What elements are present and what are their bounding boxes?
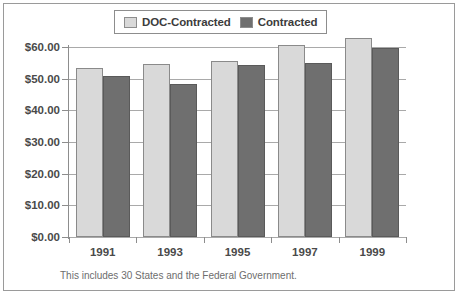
x-axis-tick [339, 237, 340, 243]
bar [143, 64, 170, 237]
x-axis-tick [406, 237, 407, 243]
bar-group [76, 47, 130, 237]
chart-footnote: This includes 30 States and the Federal … [60, 270, 297, 281]
bar [372, 48, 399, 237]
y-axis-tick [62, 174, 68, 175]
y-axis-tick [62, 237, 68, 238]
y-axis-tick-label: $50.00 [25, 73, 60, 85]
y-axis-tick [62, 205, 68, 206]
x-axis-tick [204, 237, 205, 243]
y-axis-tick [62, 79, 68, 80]
bar-group [345, 47, 399, 237]
legend-label-contracted: Contracted [258, 16, 318, 28]
y-axis-labels: $0.00$10.00$20.00$30.00$40.00$50.00$60.0… [0, 0, 60, 296]
x-axis-tick [69, 237, 70, 243]
chart-legend: DOC-Contracted Contracted [114, 10, 327, 34]
x-axis-tick-label: 1991 [90, 246, 116, 258]
legend-entry-contracted: Contracted [240, 16, 318, 28]
x-axis-tick-label: 1995 [225, 246, 251, 258]
bar-group [143, 47, 197, 237]
bar [345, 38, 372, 237]
x-axis-tick-label: 1997 [292, 246, 318, 258]
y-axis-tick-label: $10.00 [25, 199, 60, 211]
y-axis-tick-label: $0.00 [31, 231, 60, 243]
legend-swatch-contracted [240, 17, 253, 28]
bar [76, 68, 103, 237]
y-axis-tick [62, 47, 68, 48]
x-axis-tick-label: 1999 [360, 246, 386, 258]
bar [238, 65, 265, 237]
bar-group [278, 47, 332, 237]
x-axis-tick-label: 1993 [157, 246, 183, 258]
chart-figure: DOC-Contracted Contracted $0.00$10.00$20… [0, 0, 460, 296]
bar [170, 84, 197, 237]
legend-swatch-doc-contracted [124, 17, 137, 28]
bar-groups [69, 47, 406, 237]
bar [103, 76, 130, 237]
x-axis-tick [136, 237, 137, 243]
bar-group [211, 47, 265, 237]
bar [305, 63, 332, 237]
y-axis-tick-label: $20.00 [25, 168, 60, 180]
bar [211, 61, 238, 237]
y-axis-tick [62, 142, 68, 143]
gridline [69, 237, 406, 238]
y-axis-tick-label: $60.00 [25, 41, 60, 53]
y-axis-tick [62, 110, 68, 111]
legend-entry-doc-contracted: DOC-Contracted [124, 16, 231, 28]
y-axis-tick-label: $30.00 [25, 136, 60, 148]
bar [278, 45, 305, 237]
y-axis-tick-label: $40.00 [25, 104, 60, 116]
legend-label-doc-contracted: DOC-Contracted [142, 16, 231, 28]
x-axis-tick [271, 237, 272, 243]
